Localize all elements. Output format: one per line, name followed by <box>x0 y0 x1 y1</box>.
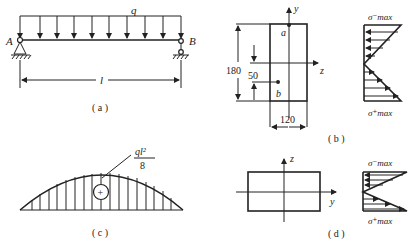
max-compressive-stress-label-d: σ⁻max <box>368 158 392 168</box>
cross-section-d: z y ( d ) <box>236 153 345 240</box>
max-tensile-stress-label-d: σ⁺max <box>368 216 392 226</box>
load-label: q <box>131 4 137 16</box>
cross-section-b: y z a b 180 50 120 ( b ) <box>226 3 345 145</box>
max-compressive-stress-label: σ⁻max <box>368 12 392 22</box>
stress-diagram-b: σ⁻max σ⁺max <box>364 12 401 118</box>
max-tensile-stress-label: σ⁺max <box>368 108 392 118</box>
leader-line <box>102 155 131 178</box>
moment-diagram: + ql² 8 ( c ) <box>20 146 183 239</box>
distributed-load-arrows <box>20 16 181 38</box>
y-axis-label: y <box>293 3 299 14</box>
caption-c: ( c ) <box>92 227 108 239</box>
span-label: l <box>100 74 103 86</box>
caption-d: ( d ) <box>328 228 345 240</box>
stress-diagram-d: σ⁻max σ⁺max <box>363 158 407 226</box>
caption-b: ( b ) <box>328 133 345 145</box>
figure-canvas: q A B l ( a ) y <box>0 0 413 251</box>
beam-diagram: q A B l ( a ) <box>5 4 196 114</box>
point-b-label: b <box>276 88 281 99</box>
caption-a: ( a ) <box>92 102 108 114</box>
support-label-a: A <box>5 35 13 47</box>
z-axis-label: z <box>319 65 324 76</box>
positive-sign: + <box>98 187 104 198</box>
y-axis-label-d: y <box>329 196 335 207</box>
point-a-marker <box>287 23 291 27</box>
max-moment-numerator: ql² <box>135 146 147 157</box>
point-a-label: a <box>281 27 286 38</box>
point-b-marker <box>276 80 280 84</box>
z-axis-label-d: z <box>289 153 294 164</box>
width-dimension: 120 <box>280 114 295 125</box>
height-dimension: 180 <box>226 65 241 76</box>
max-moment-denominator: 8 <box>140 160 145 171</box>
roller-support-b <box>173 39 189 59</box>
support-label-b: B <box>189 35 196 47</box>
offset-dimension: 50 <box>248 70 258 81</box>
